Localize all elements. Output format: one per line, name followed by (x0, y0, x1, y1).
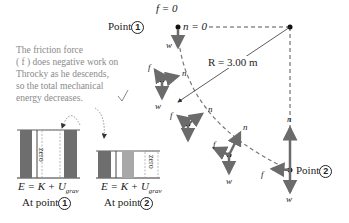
equation-subscript: grav (149, 187, 162, 195)
caption-line: so the total mechanical (16, 80, 118, 92)
equation-text: E = K + U (101, 180, 149, 192)
point2-label: Point2 (296, 164, 332, 178)
f-label: f (261, 169, 264, 179)
caption-text: At point (104, 196, 140, 208)
point1-dot (176, 25, 181, 30)
w-label: w (226, 176, 232, 186)
radius-label: R = 3.00 m (208, 56, 258, 68)
n-label: n (182, 68, 187, 78)
caption-text: At point (22, 196, 58, 208)
at-point-2-caption: At point2 (104, 196, 153, 210)
point1-number-badge: 1 (131, 21, 144, 34)
energy-equation-2: E = K + Ugrav (101, 180, 162, 195)
friction-zero-label: f = 0 (156, 2, 177, 14)
w-label: w (286, 194, 292, 204)
equation-text: E = K + U (18, 180, 66, 192)
zero-label-1: zero (37, 148, 46, 162)
caption-line: Throcky as he descends, (16, 68, 118, 80)
n-label: n (208, 104, 213, 114)
energy-equation-1: E = K + Ugrav (18, 180, 79, 195)
equation-subscript: grav (66, 187, 79, 195)
normal-zero-label: n = 0 (183, 20, 207, 32)
caption-line: The friction force (16, 44, 118, 56)
friction-caption: The friction force ( f ) does negative w… (16, 44, 118, 104)
caption-line: energy decreases. (16, 92, 118, 104)
point-number-badge: 1 (58, 197, 71, 210)
n-label: n (243, 122, 248, 132)
f-label: f (148, 62, 151, 72)
arc-path (178, 27, 290, 170)
caption-line: ( f ) does negative work on (16, 56, 118, 68)
point1-text: Point (108, 20, 131, 32)
zero-label-2: zero (147, 155, 156, 169)
f-label: f (170, 110, 173, 120)
point-number-badge: 2 (140, 197, 153, 210)
point2-text: Point (296, 164, 319, 176)
at-point-1-caption: At point1 (22, 196, 71, 210)
w-label: w (155, 101, 161, 111)
f-label: f (213, 139, 216, 149)
point1-label: Point1 (108, 20, 144, 34)
n-label: n (287, 114, 292, 124)
point2-number-badge: 2 (319, 165, 332, 178)
w-label: w (166, 40, 172, 50)
